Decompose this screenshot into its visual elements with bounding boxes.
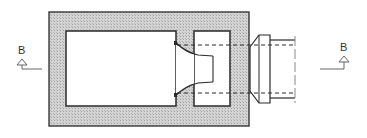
- section-label-left: B: [18, 44, 25, 56]
- right-cavity: [194, 31, 230, 106]
- section-line-right: [320, 62, 344, 69]
- lower-joint-mark: [174, 93, 177, 97]
- left-cavity: [66, 31, 176, 106]
- section-arrow-left-icon: [17, 59, 27, 65]
- section-label-right: B: [340, 41, 347, 53]
- cross-section-diagram: B B: [0, 0, 367, 138]
- upper-joint-mark: [174, 41, 177, 45]
- section-arrow-right-icon: [339, 56, 349, 62]
- section-line-left: [22, 65, 42, 69]
- flange-collar: [250, 35, 270, 103]
- section-marker-right: B: [320, 41, 349, 69]
- section-marker-left: B: [17, 44, 42, 69]
